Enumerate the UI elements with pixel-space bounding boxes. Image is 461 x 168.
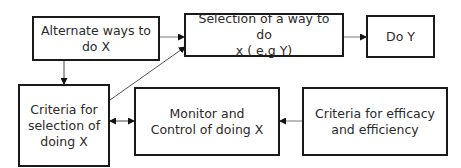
node-criteria-for-selection: Criteria for selection of doing X <box>18 84 110 167</box>
node-monitor-line-2: Control of doing X <box>151 122 264 138</box>
node-criteria-selection-line-3: doing X <box>28 134 100 150</box>
node-criteria-selection-line-1: Criteria for <box>28 102 100 118</box>
node-efficacy-line-2: and efficiency <box>315 122 435 138</box>
node-alternate-ways-line-2: do X <box>41 39 151 55</box>
node-alternate-ways-line-1: Alternate ways to <box>41 23 151 39</box>
node-criteria-efficacy-efficiency: Criteria for efficacy and efficiency <box>302 87 448 156</box>
node-selection-of-way: Selection of a way to do x ( e.g Y) <box>184 13 344 57</box>
node-selection-line-2: x ( e.g Y) <box>190 43 338 59</box>
node-do-y-label: Do Y <box>386 29 415 45</box>
node-criteria-selection-line-2: selection of <box>28 118 100 134</box>
node-efficacy-line-1: Criteria for efficacy <box>315 106 435 122</box>
node-selection-line-1: Selection of a way to do <box>190 11 338 43</box>
node-monitor-line-1: Monitor and <box>151 106 264 122</box>
node-monitor-and-control: Monitor and Control of doing X <box>134 87 280 156</box>
node-do-y: Do Y <box>366 15 435 58</box>
node-alternate-ways: Alternate ways to do X <box>32 16 160 61</box>
